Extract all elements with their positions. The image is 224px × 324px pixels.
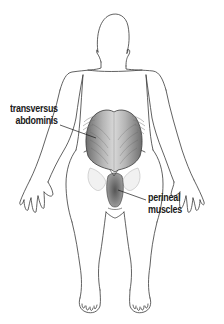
body-illustration bbox=[0, 0, 224, 324]
label-line: perineal bbox=[148, 191, 182, 203]
label-perineal-muscles: perineal muscles bbox=[148, 191, 182, 215]
label-line: muscles bbox=[148, 203, 182, 215]
head-outline bbox=[97, 14, 129, 54]
perineal-muscles-region bbox=[107, 170, 124, 210]
transversus-abdominis-muscle bbox=[83, 110, 145, 172]
label-line: abdominis bbox=[10, 114, 58, 126]
label-transversus-abdominis: transversus abdominis bbox=[10, 102, 58, 126]
label-line: transversus bbox=[10, 102, 58, 114]
